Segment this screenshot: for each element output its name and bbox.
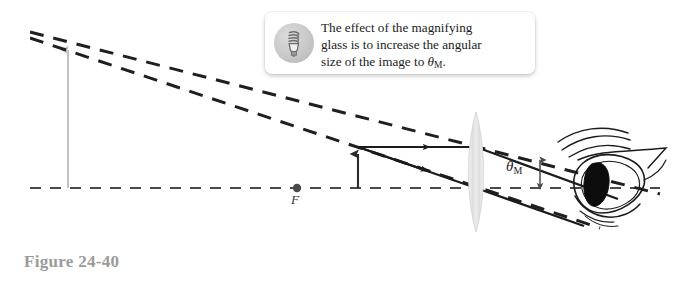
- angle-theta-subscript: M: [513, 165, 522, 176]
- callout-text: The effect of the magnifying glass is to…: [321, 19, 525, 75]
- angle-label: θM: [506, 158, 522, 176]
- compact-fluorescent-bulb-icon: [274, 23, 314, 63]
- focal-point-marker: [293, 184, 301, 192]
- eye-illustration: [558, 128, 666, 226]
- callout-line-2: glass is to increase the angular: [321, 37, 482, 52]
- callout-line-1: The effect of the magnifying: [321, 20, 472, 35]
- figure-caption: Figure 24-40: [24, 252, 119, 272]
- focal-point-label: F: [291, 192, 299, 208]
- callout-line-3-prefix: size of the image to: [321, 54, 428, 69]
- figure-container: The effect of the magnifying glass is to…: [0, 0, 691, 296]
- converging-lens: [469, 112, 484, 232]
- callout-theta-subscript: M: [434, 60, 442, 70]
- callout-line-3-suffix: .: [443, 54, 446, 69]
- callout-box: The effect of the magnifying glass is to…: [265, 12, 535, 74]
